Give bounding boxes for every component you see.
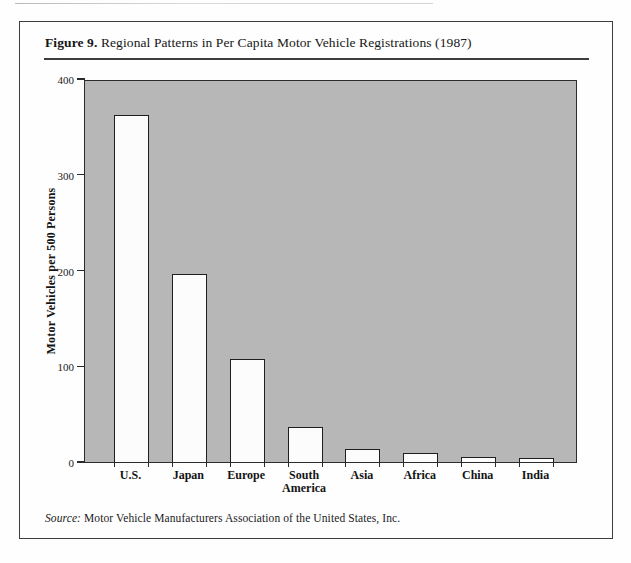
bar-china	[461, 457, 496, 462]
x-axis-tick	[288, 462, 289, 467]
y-axis-tick	[77, 461, 85, 462]
y-axis-tick	[77, 174, 85, 175]
x-axis-tick	[519, 462, 520, 467]
bar-africa	[403, 453, 438, 462]
y-tick-label-300: 300	[40, 169, 74, 183]
x-axis-tick	[322, 462, 323, 467]
x-axis-tick	[345, 462, 346, 467]
y-axis-tick	[77, 78, 85, 79]
y-tick-label-0: 0	[40, 456, 74, 470]
source-text: Motor Vehicle Manufacturers Association …	[84, 512, 400, 524]
bar-u-s	[114, 115, 149, 462]
x-axis-tick	[230, 462, 231, 467]
y-tick-label-100: 100	[40, 360, 74, 374]
y-tick-label-200: 200	[40, 265, 74, 279]
x-axis-tick	[495, 462, 496, 467]
plot-area	[84, 80, 577, 463]
bar-europe	[230, 359, 265, 462]
bar-asia	[345, 449, 380, 462]
x-axis-tick	[206, 462, 207, 467]
y-tick-label-400: 400	[40, 73, 74, 87]
x-axis-tick	[403, 462, 404, 467]
x-axis-tick	[114, 462, 115, 467]
source-note: Source: Motor Vehicle Manufacturers Asso…	[45, 512, 400, 524]
bar-india	[519, 458, 554, 462]
x-axis-tick	[379, 462, 380, 467]
x-axis-tick	[461, 462, 462, 467]
y-axis-tick	[77, 366, 85, 367]
bar-chart: Motor Vehicles per 500 Persons U.S.Japan…	[20, 22, 612, 538]
x-axis-tick	[553, 462, 554, 467]
x-axis-tick	[148, 462, 149, 467]
x-tick-label-india: India	[500, 469, 572, 482]
x-axis-tick	[172, 462, 173, 467]
bar-japan	[172, 274, 207, 462]
page: Figure 9. Regional Patterns in Per Capit…	[0, 0, 631, 563]
y-axis-tick	[77, 270, 85, 271]
x-axis-tick	[264, 462, 265, 467]
x-axis-tick	[437, 462, 438, 467]
source-label: Source:	[45, 512, 81, 524]
figure-box: Figure 9. Regional Patterns in Per Capit…	[19, 21, 613, 539]
bar-south-america	[288, 427, 323, 462]
scan-artifact-line	[15, 3, 433, 4]
